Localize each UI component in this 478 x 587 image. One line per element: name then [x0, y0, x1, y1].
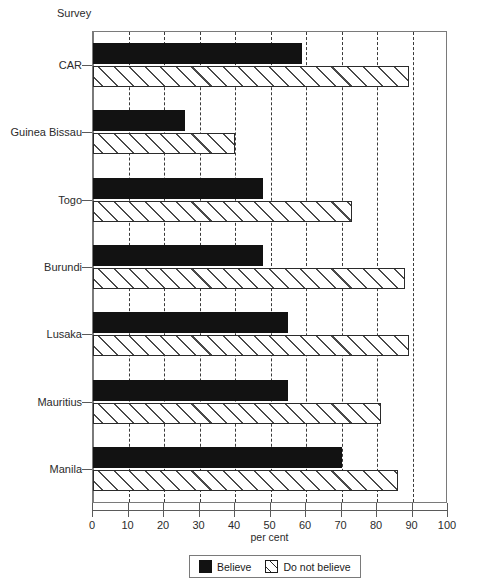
legend-swatch-hatch-icon [265, 560, 278, 573]
x-tick-label: 60 [299, 519, 311, 531]
x-tick-40 [234, 503, 235, 517]
category-tick [82, 132, 92, 133]
bar-do-not-believe [93, 335, 409, 356]
bar-group [93, 178, 446, 224]
y-axis-title: Survey [57, 7, 91, 19]
bar-do-not-believe [93, 201, 352, 222]
x-tick-70 [341, 503, 342, 517]
bar-do-not-believe [93, 133, 235, 154]
category-tick [82, 469, 92, 470]
bar-group [93, 245, 446, 291]
x-tick-100 [447, 503, 448, 517]
bar-group [93, 110, 446, 156]
x-tick-label: 40 [228, 519, 240, 531]
x-tick-50 [270, 503, 271, 517]
bar-believe [93, 110, 185, 131]
legend-item: Do not believe [265, 560, 350, 573]
legend-item: Believe [199, 560, 251, 573]
legend-swatch-solid-icon [199, 560, 212, 573]
category-tick [82, 267, 92, 268]
x-tick-label: 50 [263, 519, 275, 531]
category-tick [82, 402, 92, 403]
bar-group [93, 380, 446, 426]
x-tick-20 [163, 503, 164, 517]
x-tick-60 [305, 503, 306, 517]
bar-do-not-believe [93, 470, 398, 491]
x-tick-label: 10 [121, 519, 133, 531]
legend-label: Believe [217, 561, 251, 573]
category-tick [82, 334, 92, 335]
x-tick-label: 0 [89, 519, 95, 531]
x-tick-10 [128, 503, 129, 517]
bar-group [93, 312, 446, 358]
bars-layer [93, 32, 446, 502]
bar-do-not-believe [93, 66, 409, 87]
x-tick-label: 30 [192, 519, 204, 531]
category-tick [82, 200, 92, 201]
y-axis-ticks [0, 31, 92, 503]
x-axis-title: per cent [92, 531, 447, 543]
x-tick-label: 70 [334, 519, 346, 531]
bar-believe [93, 312, 288, 333]
bar-believe [93, 245, 263, 266]
x-tick-30 [199, 503, 200, 517]
bar-believe [93, 380, 288, 401]
plot-area [92, 31, 447, 503]
x-tick-label: 90 [405, 519, 417, 531]
bar-group [93, 447, 446, 493]
x-axis-ticks: 0102030405060708090100 [92, 503, 447, 533]
x-tick-90 [412, 503, 413, 517]
x-tick-label: 80 [370, 519, 382, 531]
bar-believe [93, 43, 302, 64]
x-tick-0 [92, 503, 93, 517]
category-tick [82, 65, 92, 66]
chart-legend: BelieveDo not believe [189, 555, 361, 578]
x-tick-label: 20 [157, 519, 169, 531]
x-tick-80 [376, 503, 377, 517]
bar-believe [93, 178, 263, 199]
bar-believe [93, 447, 342, 468]
bar-do-not-believe [93, 268, 405, 289]
legend-label: Do not believe [283, 561, 350, 573]
x-tick-label: 100 [438, 519, 456, 531]
bar-do-not-believe [93, 403, 381, 424]
bar-group [93, 43, 446, 89]
